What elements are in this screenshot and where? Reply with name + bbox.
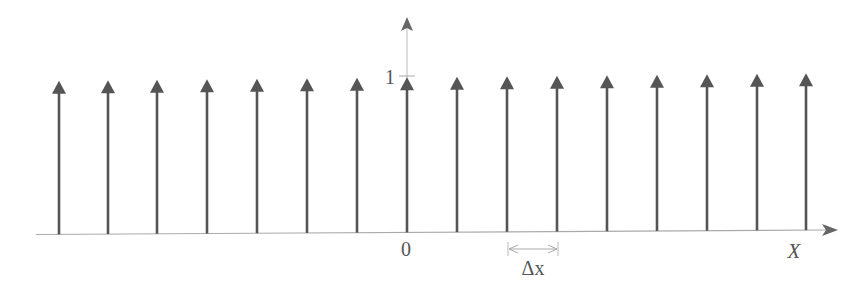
impulse-arrow-icon <box>450 77 464 90</box>
delta-x-text: Δx <box>522 257 545 279</box>
impulse-group <box>52 73 813 234</box>
impulse <box>200 79 214 233</box>
impulse <box>799 73 813 230</box>
impulse <box>350 78 364 233</box>
impulse <box>150 80 164 234</box>
delta-x-label: Δx <box>522 257 545 279</box>
impulse <box>52 81 66 235</box>
impulse-arrow-icon <box>300 78 314 91</box>
impulse-arrow-icon <box>500 76 514 89</box>
impulse <box>101 80 115 234</box>
impulse <box>250 79 264 233</box>
x-axis-label: X <box>787 239 802 263</box>
impulse-arrow-icon <box>750 74 764 87</box>
impulse <box>300 78 314 233</box>
impulse-arrow-icon <box>600 75 614 88</box>
impulse <box>500 76 514 232</box>
impulse-arrow-icon <box>799 73 813 86</box>
impulse-arrow-icon <box>52 81 66 94</box>
impulse <box>400 77 414 232</box>
impulse <box>650 75 664 231</box>
impulse-arrow-icon <box>101 80 115 93</box>
impulse-arrow-icon <box>400 77 414 90</box>
impulse-arrow-icon <box>550 76 564 89</box>
unit-label: 1 <box>385 66 395 88</box>
impulse-arrow-icon <box>650 75 664 88</box>
impulse-arrow-icon <box>200 79 214 92</box>
origin-label: 0 <box>401 238 411 260</box>
impulse <box>450 77 464 232</box>
impulse <box>550 76 564 232</box>
impulse-train-diagram: 0 1 X Δx <box>0 0 868 291</box>
impulse <box>700 74 714 230</box>
delta-x-bracket <box>508 242 558 256</box>
impulse-arrow-icon <box>700 74 714 87</box>
impulse-arrow-icon <box>150 80 164 93</box>
impulse <box>750 74 764 231</box>
impulse <box>600 75 614 231</box>
impulse-arrow-icon <box>250 79 264 92</box>
impulse-arrow-icon <box>350 78 364 91</box>
